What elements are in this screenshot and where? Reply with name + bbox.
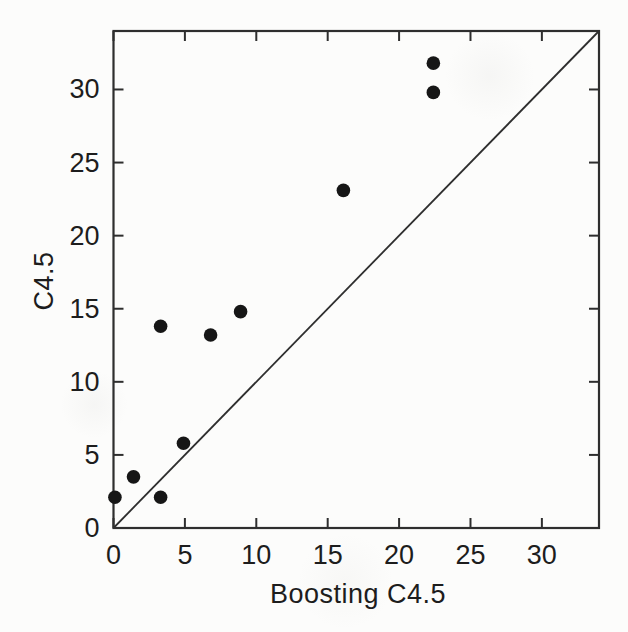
data-point (427, 56, 441, 70)
data-point (154, 491, 168, 505)
y-tick-label: 20 (69, 221, 99, 251)
data-point (337, 184, 351, 198)
y-tick-label: 10 (69, 367, 99, 397)
x-tick-label: 0 (106, 540, 121, 570)
x-axis-label: Boosting C4.5 (270, 579, 446, 610)
x-tick-label: 20 (384, 540, 414, 570)
data-point (108, 491, 122, 505)
scatter-figure: 051015202530051015202530 C4.5 Boosting C… (0, 0, 628, 632)
diagonal-reference-line (114, 31, 600, 528)
y-axis-label: C4.5 (29, 251, 60, 310)
y-tick-label: 0 (84, 513, 99, 543)
data-point (177, 436, 191, 450)
scatter-plot: 051015202530051015202530 (0, 0, 628, 632)
data-point (127, 470, 141, 484)
x-tick-label: 5 (177, 540, 192, 570)
data-point (234, 305, 248, 319)
x-tick-label: 15 (313, 540, 343, 570)
y-tick-label: 30 (69, 74, 99, 104)
x-tick-label: 30 (527, 540, 557, 570)
data-point (204, 328, 218, 342)
x-tick-label: 10 (241, 540, 271, 570)
y-tick-label: 5 (84, 440, 99, 470)
data-point (427, 86, 441, 100)
data-point (154, 319, 168, 333)
x-tick-label: 25 (455, 540, 485, 570)
y-tick-label: 25 (69, 148, 99, 178)
y-tick-label: 15 (69, 294, 99, 324)
